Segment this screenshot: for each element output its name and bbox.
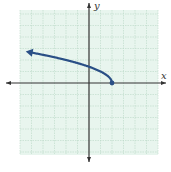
x-axis-left-arrow-icon xyxy=(6,81,11,85)
endpoint-dot xyxy=(110,81,115,86)
coordinate-plane xyxy=(0,0,171,172)
y-axis-label: y xyxy=(94,0,100,11)
y-axis-down-arrow-icon xyxy=(87,157,91,162)
y-axis-up-arrow-icon xyxy=(87,3,91,8)
x-axis-right-arrow-icon xyxy=(161,81,166,85)
x-axis-label: x xyxy=(161,70,167,81)
